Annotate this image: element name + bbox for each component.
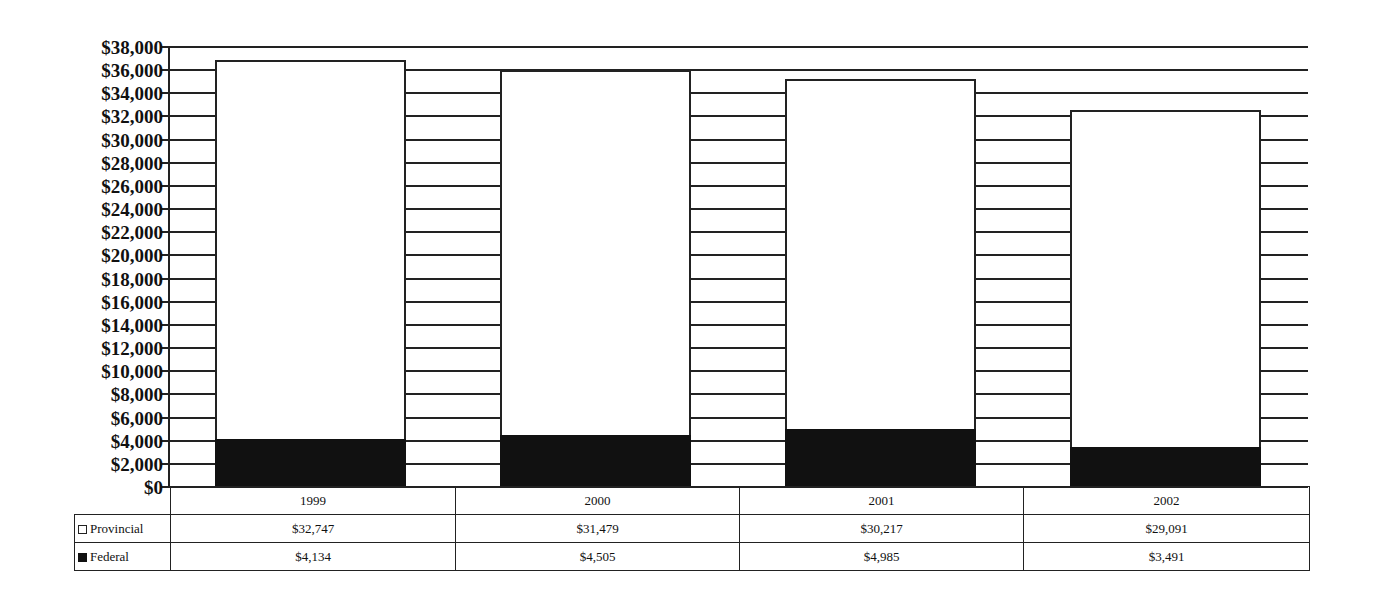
bar-segment-federal	[500, 435, 691, 487]
data-table-row-federal: Federal $4,134 $4,505 $4,985 $3,491	[75, 543, 1310, 571]
y-tick-label: $14,000	[101, 315, 163, 334]
legend-provincial: Provincial	[75, 515, 171, 543]
y-tick-label: $24,000	[101, 200, 163, 219]
y-tick-label: $20,000	[101, 246, 163, 265]
bar-segment-provincial	[1070, 110, 1261, 447]
federal-2000: $4,505	[456, 543, 740, 571]
y-tick-label: $30,000	[101, 130, 163, 149]
provincial-2002: $29,091	[1024, 515, 1310, 543]
category-2000: 2000	[456, 487, 740, 515]
y-tick-label: $34,000	[101, 84, 163, 103]
data-table-row-provincial: Provincial $32,747 $31,479 $30,217 $29,0…	[75, 515, 1310, 543]
y-tick-label: $18,000	[101, 269, 163, 288]
y-tick-label: $22,000	[101, 223, 163, 242]
y-tick-label: $26,000	[101, 176, 163, 195]
category-2001: 2001	[740, 487, 1024, 515]
bar-2000	[500, 70, 691, 487]
y-tick-label: $10,000	[101, 362, 163, 381]
provincial-2001: $30,217	[740, 515, 1024, 543]
bar-segment-provincial	[500, 70, 691, 434]
provincial-swatch-icon	[78, 525, 87, 534]
bar-segment-provincial	[785, 79, 976, 429]
y-tick-label: $12,000	[101, 339, 163, 358]
federal-2002: $3,491	[1024, 543, 1310, 571]
bar-2001	[785, 79, 976, 487]
data-table-header-row: 1999 2000 2001 2002	[75, 487, 1310, 515]
y-tick-label: $4,000	[111, 431, 163, 450]
federal-swatch-icon	[78, 553, 87, 562]
legend-federal: Federal	[75, 543, 171, 571]
bar-segment-provincial	[215, 60, 406, 439]
y-tick-label: $36,000	[101, 61, 163, 80]
category-1999: 1999	[171, 487, 456, 515]
bar-1999	[215, 60, 406, 487]
bar-segment-federal	[215, 439, 406, 487]
y-tick-label: $38,000	[101, 38, 163, 57]
y-tick-label: $2,000	[111, 454, 163, 473]
provincial-2000: $31,479	[456, 515, 740, 543]
y-tick-label: $28,000	[101, 153, 163, 172]
federal-2001: $4,985	[740, 543, 1024, 571]
y-axis	[168, 47, 170, 488]
y-tick-label: $8,000	[111, 385, 163, 404]
bar-segment-federal	[785, 429, 976, 487]
data-table-corner	[75, 487, 171, 515]
category-2002: 2002	[1024, 487, 1310, 515]
provincial-1999: $32,747	[171, 515, 456, 543]
y-tick-label: $16,000	[101, 292, 163, 311]
y-tick-label: $6,000	[111, 408, 163, 427]
bar-2002	[1070, 110, 1261, 487]
federal-1999: $4,134	[171, 543, 456, 571]
y-tick-label: $32,000	[101, 107, 163, 126]
data-table: 1999 2000 2001 2002 Provincial $32,747 $…	[74, 486, 1310, 571]
bar-segment-federal	[1070, 447, 1261, 487]
gridline	[160, 46, 1308, 48]
